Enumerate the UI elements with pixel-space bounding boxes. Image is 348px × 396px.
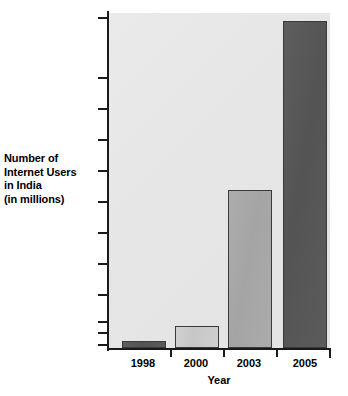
x-axis-tick-mark [170, 350, 172, 357]
y-axis-tick-mark [98, 344, 108, 346]
y-axis-tick-mark [98, 263, 108, 265]
bar-1998 [122, 341, 166, 348]
y-axis-line [107, 11, 109, 351]
y-axis-title-line-1: Number of [4, 152, 104, 166]
y-axis-tick-mark [98, 232, 108, 234]
y-axis-tick-mark [98, 332, 108, 334]
y-axis-tick-mark [98, 17, 108, 19]
x-axis-label-1998: 1998 [113, 357, 173, 369]
x-axis-label-2005: 2005 [275, 357, 335, 369]
y-axis-title-line-2: Internet Users [4, 166, 104, 180]
x-axis-label-2003: 2003 [219, 357, 279, 369]
bar-chart: Number of Internet Users in India (in mi… [0, 0, 348, 396]
y-axis-tick-mark [98, 201, 108, 203]
y-axis-tick-mark [98, 108, 108, 110]
bar-2005 [283, 21, 327, 348]
y-axis-tick-mark [98, 77, 108, 79]
bar-2000 [175, 326, 219, 348]
y-axis-title: Number of Internet Users in India (in mi… [4, 152, 104, 206]
y-axis-title-line-3: in India [4, 179, 104, 193]
x-axis-label-2000: 2000 [166, 357, 226, 369]
y-axis-tick-mark [98, 321, 108, 323]
x-axis-tick-mark [223, 350, 225, 357]
y-axis-title-line-4: (in millions) [4, 193, 104, 207]
y-axis-tick-mark [98, 139, 108, 141]
x-axis-tick-mark [276, 350, 278, 357]
bar-2003 [228, 190, 272, 348]
x-axis-line [107, 348, 331, 350]
y-axis-tick-mark [98, 294, 108, 296]
y-axis-tick-mark [98, 170, 108, 172]
x-axis-title: Year [108, 374, 330, 386]
